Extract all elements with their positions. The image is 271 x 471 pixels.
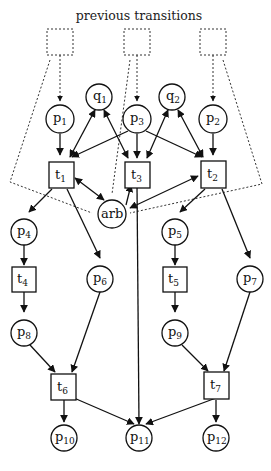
dashed-arcs: [10, 55, 262, 213]
place-p8: p8: [11, 320, 37, 346]
place-p7: p7: [237, 266, 263, 292]
transition-t4: t4: [12, 267, 36, 292]
place-p2: p2: [199, 105, 227, 133]
place-arb: arb: [98, 200, 126, 228]
place-p6: p6: [87, 266, 113, 292]
place-p3: p3: [123, 105, 151, 133]
place-p1: p1: [46, 105, 74, 133]
transition-t2: t2: [201, 161, 226, 188]
place-p5: p5: [162, 219, 188, 245]
place-q2: q2: [159, 84, 185, 110]
transition-t1: t1: [49, 162, 74, 188]
transition-t6: t6: [51, 374, 76, 400]
transition-t3: t3: [125, 162, 150, 188]
place-p11: p11: [126, 425, 152, 451]
svg-text:arb: arb: [101, 206, 123, 221]
previous-transition-box: [200, 29, 226, 55]
transition-t7: t7: [204, 372, 229, 399]
petri-net-diagram: previous transitions: [0, 0, 271, 471]
diagram-title: previous transitions: [76, 8, 202, 23]
place-p9: p9: [162, 320, 188, 346]
previous-transitions: [47, 29, 226, 55]
previous-transition-box: [124, 29, 150, 55]
place-p12: p12: [203, 425, 229, 451]
place-p4: p4: [11, 219, 37, 245]
place-p10: p10: [51, 425, 77, 451]
transition-t5: t5: [163, 267, 187, 292]
previous-transition-box: [47, 29, 73, 55]
place-q1: q1: [86, 84, 112, 110]
